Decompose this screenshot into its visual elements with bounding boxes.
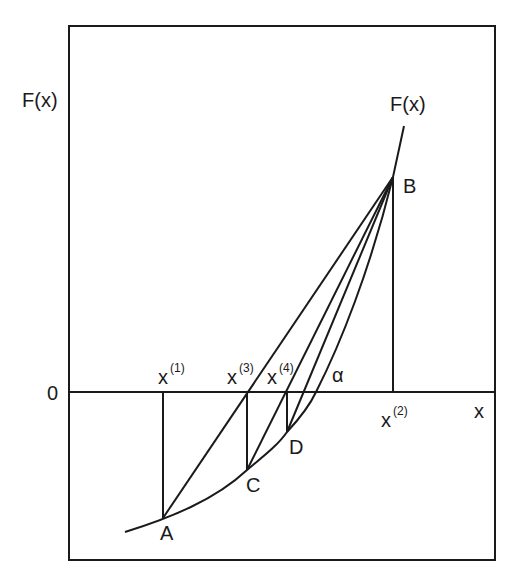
origin-label: 0	[47, 382, 58, 404]
point-B-label: B	[403, 175, 416, 197]
x-axis-label: x	[474, 400, 484, 422]
svg-text:x: x	[381, 409, 391, 431]
chord-A-B	[163, 177, 393, 518]
svg-text:(3): (3)	[239, 361, 254, 375]
svg-text:(2): (2)	[393, 404, 408, 418]
iterate-label-x3: x (3)	[227, 361, 254, 388]
curve-label: F(x)	[390, 93, 426, 115]
y-axis-label: F(x)	[22, 89, 58, 111]
svg-text:(4): (4)	[279, 361, 294, 375]
svg-text:x: x	[158, 366, 168, 388]
svg-text:(1): (1)	[170, 361, 185, 375]
chord-D-B	[287, 177, 393, 432]
point-C-label: C	[246, 474, 260, 496]
svg-text:x: x	[267, 366, 277, 388]
diagram-canvas: F(x) 0 x F(x) α x (1) x (3) x (4) x (2) …	[0, 0, 527, 588]
svg-text:x: x	[227, 366, 237, 388]
point-A-label: A	[160, 522, 174, 544]
root-alpha-label: α	[332, 364, 344, 386]
iterate-label-x2: x (2)	[381, 404, 408, 431]
iterate-label-x1: x (1)	[158, 361, 185, 388]
plot-frame	[69, 26, 495, 560]
function-curve	[125, 126, 404, 532]
point-D-label: D	[289, 436, 303, 458]
chord-C-B	[247, 177, 393, 470]
